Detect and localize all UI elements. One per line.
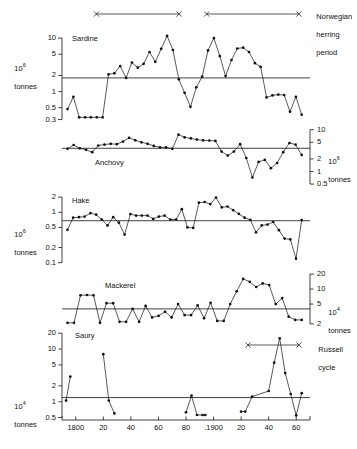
data-point — [92, 294, 95, 297]
data-point — [236, 47, 239, 50]
data-point — [268, 284, 271, 287]
y-tick-label: 2 — [52, 193, 56, 201]
data-point — [196, 414, 199, 417]
data-point — [72, 144, 75, 147]
data-point — [249, 218, 252, 221]
data-point — [192, 227, 195, 230]
panel-hake — [58, 196, 310, 262]
data-point — [201, 75, 204, 78]
y-tick-label: 0.5 — [46, 223, 56, 231]
data-point — [254, 62, 257, 65]
data-point — [102, 353, 105, 356]
data-point — [119, 65, 122, 68]
data-point — [160, 47, 163, 50]
data-point — [113, 72, 116, 75]
data-point — [131, 61, 134, 64]
data-point — [83, 215, 86, 218]
data-point — [138, 320, 141, 323]
data-point — [273, 361, 276, 364]
data-point — [190, 394, 193, 397]
data-point — [66, 147, 69, 150]
data-point — [284, 372, 287, 375]
y-tick-label: 0.5 — [317, 180, 327, 188]
data-point — [278, 229, 281, 232]
data-point — [183, 136, 186, 139]
data-point — [239, 143, 242, 146]
y-tick-label: 1 — [317, 168, 321, 176]
data-point — [185, 411, 188, 414]
data-point — [169, 218, 172, 221]
data-point — [255, 231, 258, 234]
data-point — [107, 399, 110, 402]
data-point — [109, 142, 112, 145]
y-tick-label: 10 — [317, 285, 325, 293]
data-point — [103, 143, 106, 146]
x-axis — [62, 416, 310, 420]
data-point — [226, 205, 229, 208]
data-point — [177, 133, 180, 136]
data-point — [229, 303, 232, 306]
data-point — [295, 414, 298, 417]
data-point — [183, 91, 186, 94]
herring-bar-2 — [204, 11, 302, 16]
data-point — [260, 224, 263, 227]
data-point — [95, 116, 98, 119]
data-point — [163, 214, 166, 217]
data-point — [69, 375, 72, 378]
data-point — [288, 142, 291, 145]
data-point — [100, 218, 103, 221]
data-point — [144, 305, 147, 308]
data-point — [91, 151, 94, 154]
data-point — [99, 321, 102, 324]
data-point — [84, 116, 87, 119]
data-point — [125, 320, 128, 323]
y-tick-label: 2 — [52, 71, 56, 79]
data-point — [204, 414, 207, 417]
data-point — [122, 140, 125, 143]
y-tick-label: 10 — [317, 126, 325, 134]
y-tick-label: 0.1 — [46, 259, 56, 267]
data-point — [242, 46, 245, 49]
data-point — [263, 159, 266, 162]
data-point — [218, 55, 221, 58]
data-point — [202, 139, 205, 142]
data-point — [113, 412, 116, 415]
data-point — [123, 233, 126, 236]
data-point — [105, 302, 108, 305]
y-tick-label: 0.2 — [46, 244, 56, 252]
data-point — [148, 51, 151, 54]
data-point — [72, 216, 75, 219]
herring-bar-1 — [94, 11, 182, 16]
y-tick-label: 2 — [317, 320, 321, 328]
y-tick-label: 2 — [52, 382, 56, 390]
data-point — [240, 410, 243, 413]
data-point — [201, 414, 204, 417]
data-point — [283, 237, 286, 240]
y-tick-label: 5 — [52, 50, 56, 58]
data-point — [294, 143, 297, 146]
data-point — [196, 304, 199, 307]
data-point — [238, 213, 241, 216]
data-point — [177, 303, 180, 306]
data-point — [271, 94, 274, 97]
data-point — [146, 214, 149, 217]
y-tick-label: 2 — [317, 155, 321, 163]
russell-bar — [245, 342, 301, 347]
data-point — [166, 35, 169, 38]
data-point — [195, 86, 198, 89]
data-point — [261, 282, 264, 285]
data-point — [300, 154, 303, 157]
data-point — [165, 146, 168, 149]
data-point — [65, 399, 68, 402]
data-point — [118, 221, 121, 224]
data-point — [224, 75, 227, 78]
data-point — [300, 113, 303, 116]
data-point — [287, 315, 290, 318]
data-point — [248, 51, 251, 54]
data-point — [277, 93, 280, 96]
data-point — [222, 320, 225, 323]
data-point — [66, 108, 69, 111]
y-tick-label: 20 — [48, 329, 56, 337]
data-point — [232, 209, 235, 212]
data-point — [230, 59, 233, 62]
